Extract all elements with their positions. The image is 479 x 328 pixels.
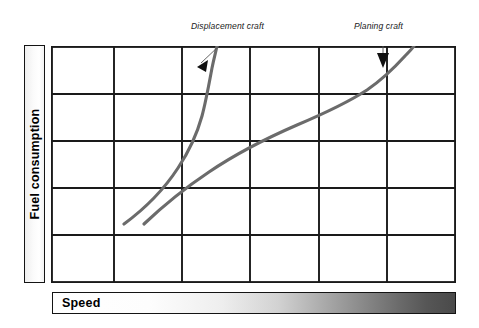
x-axis-label: Speed [62, 296, 101, 310]
annotation-displacement-craft: Displacement craft [191, 21, 264, 31]
curve-planing-craft [144, 46, 414, 224]
fuel-consumption-speed-figure: Fuel consumption [0, 0, 479, 328]
plot-svg [51, 46, 456, 283]
y-axis-label: Fuel consumption [28, 109, 42, 220]
y-axis-label-box: Fuel consumption [24, 45, 45, 283]
plot-area [51, 46, 456, 283]
curve-displacement-craft [124, 46, 217, 224]
grid-lines [52, 47, 455, 282]
grid-frame [52, 47, 455, 282]
annotation-planing-craft: Planing craft [354, 21, 403, 31]
x-axis-speed-bar: Speed [52, 292, 456, 314]
